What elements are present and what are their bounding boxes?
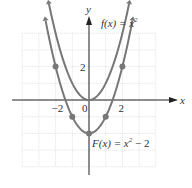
- x-tick-label: −2: [52, 102, 64, 114]
- y-axis-label: y: [85, 3, 91, 15]
- x-axis-arrow-icon: [169, 97, 178, 103]
- curve-arrow-icon: [126, 0, 132, 4]
- x-axis-label: x: [179, 94, 185, 106]
- y-axis-arrow-icon: [86, 16, 92, 25]
- tick-labels: −2022: [52, 61, 124, 114]
- data-point: [53, 64, 59, 70]
- data-point: [119, 64, 125, 70]
- data-point: [86, 130, 92, 136]
- f-label: f(x) = x2: [101, 16, 138, 30]
- F-label: F(x) = x2 − 2: [91, 136, 149, 150]
- parabola-chart: x y −2022 f(x) = x2 F(x) = x2 − 2: [0, 0, 192, 188]
- curve-arrow-icon: [46, 0, 52, 4]
- data-point: [69, 114, 75, 120]
- axes: x y: [12, 3, 185, 175]
- x-tick-label: 2: [118, 102, 124, 114]
- y-tick-label: 2: [80, 61, 86, 73]
- curve-arrow-icon: [43, 17, 49, 21]
- data-point: [103, 114, 109, 120]
- x-tick-label: 0: [82, 102, 88, 114]
